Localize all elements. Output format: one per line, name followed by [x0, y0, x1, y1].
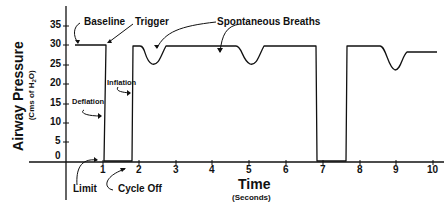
- y-tick-label: 0: [55, 150, 61, 161]
- x-tick-label: 9: [393, 164, 399, 175]
- x-tick-label: 1: [100, 164, 106, 175]
- y-tick-label: 35: [50, 19, 61, 30]
- x-axis-subtitle: (Seconds): [232, 193, 271, 202]
- annotation-inflation: Inflation: [107, 78, 136, 87]
- x-axis-title: Time: [238, 176, 270, 192]
- y-tick-label: 25: [50, 58, 61, 69]
- x-tick-label: 7: [320, 164, 326, 175]
- x-tick-label: 8: [357, 164, 363, 175]
- pressure-waveform: [75, 45, 437, 161]
- annotation-trigger: Trigger: [135, 16, 169, 27]
- y-tick-label: 20: [50, 77, 61, 88]
- annotation-limit: Limit: [73, 183, 97, 194]
- x-tick-label: 2: [136, 164, 142, 175]
- y-tick-label: 10: [50, 116, 61, 127]
- annotation-cycle-off: Cycle Off: [118, 183, 162, 194]
- x-tick-label: 10: [427, 164, 438, 175]
- y-axis-title: Airway Pressure: [10, 36, 26, 156]
- x-tick-label: 4: [209, 164, 215, 175]
- annotation-spontaneous-breaths: Spontaneous Breaths: [217, 16, 320, 27]
- annotation-baseline: Baseline: [84, 16, 125, 27]
- x-tick-label: 3: [173, 164, 179, 175]
- x-tick-label: 5: [246, 164, 252, 175]
- y-tick-label: 30: [50, 38, 61, 49]
- y-tick-label: 5: [55, 135, 61, 146]
- x-tick-label: 6: [283, 164, 289, 175]
- airway-pressure-chart: [0, 0, 447, 208]
- y-axis-subtitle: (Cms of H2O): [27, 45, 38, 145]
- y-tick-label: 15: [50, 97, 61, 108]
- annotation-deflation: Deflation: [72, 97, 104, 106]
